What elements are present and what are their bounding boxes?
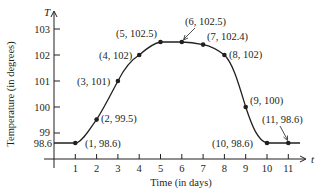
data-point [265,141,270,146]
y-tick-label: 101 [34,76,50,87]
x-tick-label: 6 [179,163,184,174]
y-tick-labels: 98.6 99 100 101 102 103 [34,24,52,150]
x-tick-label: 10 [262,163,273,174]
x-tick-label: 9 [243,163,248,174]
point-label: (8, 102) [229,49,263,61]
data-point [222,53,227,58]
point-label: (2, 99.5) [101,113,137,125]
point-label: (3, 101) [77,76,111,88]
x-tick-label: 7 [200,163,205,174]
point-label: (11, 98.6) [262,114,303,126]
data-point [286,141,291,146]
x-tick-label: 1 [73,163,78,174]
data-point [94,117,99,122]
data-point [137,53,142,58]
point-label: (6, 102.5) [185,16,227,28]
point-label: (5, 102.5) [116,28,158,40]
temperature-curve [54,42,300,143]
y-tick-label: 102 [34,50,50,61]
temperature-chart: 1 2 3 4 5 6 7 8 9 10 11 98.6 99 100 101 … [0,0,320,194]
y-ticks [54,29,60,133]
x-tick-labels: 1 2 3 4 5 6 7 8 9 10 11 [73,163,294,174]
point-label: (1, 98.6) [85,138,121,150]
y-tick-label: 103 [34,24,50,35]
data-point [158,40,163,45]
x-axis-title: Time (in days) [150,177,212,189]
data-point [73,141,78,146]
y-tick-label: 100 [34,102,50,113]
x-tick-label: 5 [158,163,163,174]
x-tick-label: 11 [283,163,293,174]
y-tick-label: 98.6 [34,138,52,149]
leader-arrow-icon [184,28,195,39]
point-label: (9, 100) [250,95,284,107]
point-label: (10, 98.6) [212,138,254,150]
point-label: (7, 102.4) [207,31,249,43]
point-labels: (1, 98.6) (2, 99.5) (3, 101) (4, 102) (5… [77,16,303,150]
x-ticks [75,154,288,159]
data-point [201,42,206,47]
x-variable-label: t [311,153,315,165]
x-tick-label: 2 [94,163,99,174]
x-tick-label: 8 [222,163,227,174]
data-point [116,79,121,84]
x-tick-label: 3 [115,163,120,174]
y-variable-label: T [44,6,51,18]
point-label: (4, 102) [99,50,133,62]
y-axis-title: Temperature (in degrees) [5,41,17,147]
data-point [243,105,248,110]
y-tick-label: 99 [40,127,51,138]
x-tick-label: 4 [137,163,143,174]
